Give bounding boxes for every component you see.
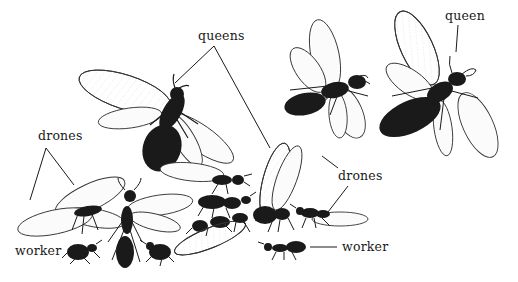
drones-left-leader-line (30, 148, 74, 200)
queen-ant-folded-wings (253, 140, 308, 232)
queen-ant-right (373, 5, 506, 163)
ant-castes-illustration: queens queen drones drones worker worker (0, 0, 518, 282)
label-worker-left: worker (15, 245, 61, 258)
drone-ant-right (290, 204, 368, 228)
label-queen: queen (445, 10, 485, 23)
queen-leader-line (456, 25, 458, 52)
label-drones-right: drones (338, 170, 383, 183)
worker-ant-bottom-left-2 (140, 240, 174, 266)
worker-ant-middle-1 (198, 192, 256, 218)
drone-ant-middle-top (159, 160, 252, 194)
drones-right-leader-line (322, 156, 348, 212)
worker-ant-bottom-left-1 (62, 240, 102, 264)
queen-ant-left (74, 61, 240, 177)
label-queens: queens (198, 30, 245, 43)
label-drones-left: drones (38, 130, 83, 143)
queen-ant-middle (282, 17, 372, 143)
worker-ant-right (258, 241, 306, 260)
label-worker-right: worker (342, 241, 388, 254)
